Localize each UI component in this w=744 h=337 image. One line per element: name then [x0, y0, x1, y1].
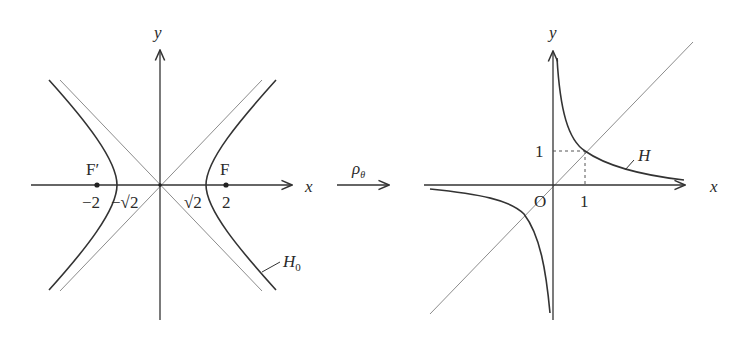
left-x-axis-label: x — [305, 178, 313, 195]
right-y-axis-label: y — [549, 24, 557, 41]
focus-right-point — [223, 182, 228, 187]
focus-left-point — [94, 182, 99, 187]
tick-two: 2 — [222, 194, 231, 211]
left-y-axis-label: y — [154, 24, 162, 41]
curve-label-h0-subscript: 0 — [295, 261, 301, 273]
hyperbola-first-quadrant-branch — [557, 58, 684, 180]
tick-y-one: 1 — [535, 143, 544, 160]
tick-sqrt2: √2 — [184, 194, 202, 211]
origin-point — [158, 183, 162, 187]
curve-label-h0: H0 — [283, 253, 301, 270]
right-x-axis-label: x — [710, 178, 718, 195]
curve-label-h: H — [638, 147, 650, 164]
tick-x-one: 1 — [580, 193, 589, 210]
transform-label-subscript: θ — [360, 169, 365, 180]
curve-label-leader — [262, 262, 280, 272]
hyperbola-third-quadrant-branch — [430, 189, 550, 313]
line-y-eq-x — [430, 42, 693, 314]
focus-right-label: F — [220, 161, 229, 178]
curve-label-leader — [625, 160, 634, 170]
tick-neg-sqrt2: −√2 — [111, 194, 138, 211]
origin-label: O — [534, 193, 546, 210]
transform-label: ρθ — [352, 160, 365, 177]
curve-label-h0-main: H — [283, 252, 295, 271]
diagram-canvas — [0, 0, 744, 337]
focus-left-label: F′ — [86, 161, 99, 178]
left-figure — [31, 50, 292, 320]
transform-label-rho: ρ — [352, 159, 360, 178]
right-figure — [424, 42, 693, 320]
tick-neg-two: −2 — [82, 194, 100, 211]
